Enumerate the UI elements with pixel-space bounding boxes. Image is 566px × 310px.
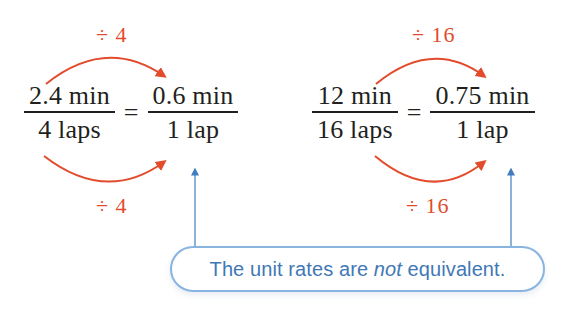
operation-label-top-right: ÷ 16 <box>412 22 456 48</box>
operation-label-top-left: ÷ 4 <box>96 22 128 48</box>
numerator: 0.75 min <box>430 82 534 111</box>
denominator: 4 laps <box>33 113 106 143</box>
up-arrow-icon-left <box>180 158 212 253</box>
numerator: 12 min <box>313 82 397 111</box>
numerator: 2.4 min <box>24 82 115 111</box>
operation-label-bottom-right: ÷ 16 <box>406 193 450 219</box>
callout-box: The unit rates are not equivalent. <box>170 246 545 292</box>
equals-sign: = <box>398 98 431 128</box>
fraction-right-operand: 0.75 min 1 lap <box>430 82 534 144</box>
equals-sign: = <box>115 98 148 128</box>
operation-label-bottom-left: ÷ 4 <box>96 193 128 219</box>
callout-text-after: equivalent. <box>402 258 506 280</box>
callout-text: The unit rates are not equivalent. <box>210 258 506 281</box>
equation-right: 12 min 16 laps = 0.75 min 1 lap <box>312 82 535 144</box>
up-arrow-icon-right <box>496 158 528 253</box>
equation-left: 2.4 min 4 laps = 0.6 min 1 lap <box>24 82 238 144</box>
fraction-left-operand: 12 min 16 laps <box>312 82 398 144</box>
figure-canvas: p 2.4 min 4 laps = 0.6 min 1 lap ÷ 4 <box>0 0 566 310</box>
denominator: 16 laps <box>312 113 398 143</box>
denominator: 1 lap <box>451 113 513 143</box>
callout-emphasis: not <box>374 258 402 280</box>
fraction-right-operand: 0.6 min 1 lap <box>148 82 239 144</box>
denominator: 1 lap <box>162 113 224 143</box>
numerator: 0.6 min <box>148 82 239 111</box>
callout-text-before: The unit rates are <box>210 258 374 280</box>
fraction-left-operand: 2.4 min 4 laps <box>24 82 115 144</box>
